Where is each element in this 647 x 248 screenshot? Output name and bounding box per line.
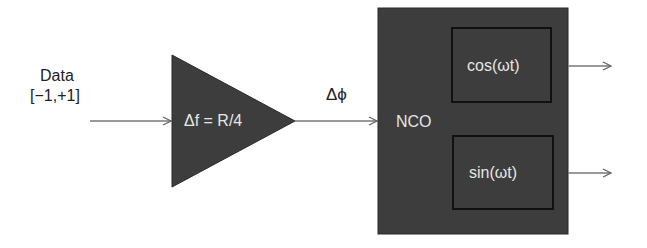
amplifier-label: Δf = R/4: [184, 112, 242, 130]
cos-label: cos(ωt): [467, 57, 520, 75]
nco-label: NCO: [396, 113, 432, 131]
sin-label: sin(ωt): [469, 164, 517, 182]
input-label-data: Data: [40, 67, 74, 85]
diagram-canvas: [0, 0, 647, 248]
phase-label: Δϕ: [326, 86, 347, 104]
input-label-range: [−1,+1]: [30, 87, 80, 105]
